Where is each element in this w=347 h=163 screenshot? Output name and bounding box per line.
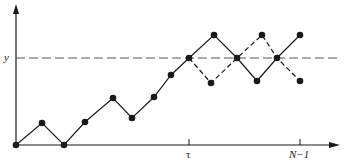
walk-point (61, 142, 68, 149)
axes (13, 4, 340, 148)
walk-point (211, 32, 218, 39)
random-walk-solid-path (16, 35, 300, 145)
walk-point (110, 95, 117, 102)
walk-point (208, 80, 215, 87)
tau-tick-label: τ (186, 149, 190, 160)
walk-point (274, 55, 281, 62)
walk-point (168, 72, 175, 79)
walk-point (13, 142, 20, 149)
y-axis-arrow-icon (13, 4, 19, 14)
walk-point (186, 55, 193, 62)
walk-point (297, 32, 304, 39)
walk-points (13, 32, 304, 149)
x-axis-arrow-icon (329, 142, 340, 148)
walk-point (297, 78, 304, 85)
n-minus-1-tick-label: N−1 (289, 149, 309, 160)
walk-point (82, 119, 89, 126)
random-walk-diagram (0, 0, 347, 163)
y-level-label: y (4, 52, 9, 63)
walk-point (254, 78, 261, 85)
walk-point (151, 94, 158, 101)
walk-point (234, 55, 241, 62)
walk-point (39, 120, 46, 127)
walk-point (129, 115, 136, 122)
walk-point (259, 32, 266, 39)
